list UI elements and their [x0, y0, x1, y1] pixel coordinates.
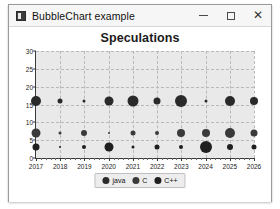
x-minor-tick [123, 158, 124, 160]
x-axis-tick-label: 2021 [126, 163, 140, 170]
bubble-point [225, 96, 235, 106]
x-tick-mark [60, 158, 61, 161]
window-title: BubbleChart example [32, 10, 135, 22]
x-minor-tick [186, 158, 187, 160]
bubble-point [33, 144, 40, 151]
gridline-horizontal [36, 87, 254, 88]
x-minor-tick [244, 158, 245, 160]
x-minor-tick [225, 158, 226, 160]
legend-marker-icon [132, 177, 139, 184]
y-axis-tick-label: 30 [26, 48, 33, 55]
bubble-point [202, 129, 210, 137]
x-minor-tick [114, 158, 115, 160]
gridline-vertical [84, 51, 85, 158]
gridline-vertical [157, 51, 158, 158]
y-axis-tick-label: 0 [29, 155, 33, 162]
x-minor-tick [239, 158, 240, 160]
bubble-point [32, 129, 41, 138]
close-icon: ✕ [253, 9, 263, 21]
y-axis-tick-label: 5 [29, 137, 33, 144]
x-tick-mark [36, 158, 37, 161]
x-axis-tick-label: 2024 [198, 163, 212, 170]
plot-area: 0510152025302017201820192020202120222023… [36, 51, 254, 158]
legend-label: C++ [164, 177, 177, 184]
x-tick-mark [181, 158, 182, 161]
window-client-area: Speculations 051015202530201720182019202… [9, 27, 271, 202]
y-axis-tick-label: 25 [26, 65, 33, 72]
x-minor-tick [51, 158, 52, 160]
bubble-point [83, 99, 86, 102]
x-minor-tick [201, 158, 202, 160]
legend-item[interactable]: C [132, 177, 147, 184]
x-minor-tick [75, 158, 76, 160]
x-minor-tick [80, 158, 81, 160]
x-minor-tick [210, 158, 211, 160]
bubble-point [58, 98, 63, 103]
legend-item[interactable]: C++ [154, 177, 177, 184]
y-tick-mark [33, 86, 36, 87]
x-minor-tick [65, 158, 66, 160]
y-tick-mark [33, 68, 36, 69]
legend-label: C [142, 177, 147, 184]
x-minor-tick [176, 158, 177, 160]
x-tick-mark [133, 158, 134, 161]
y-axis-tick-label: 20 [26, 83, 33, 90]
x-tick-mark [254, 158, 255, 161]
bubble-point [59, 146, 61, 148]
x-axis-tick-label: 2023 [174, 163, 188, 170]
x-axis-tick-label: 2019 [77, 163, 91, 170]
x-axis-line [35, 158, 255, 159]
legend-label: java [112, 177, 125, 184]
x-axis-tick-label: 2017 [29, 163, 43, 170]
gridline-horizontal [36, 140, 254, 141]
bubble-point [31, 96, 41, 106]
bubble-point [131, 146, 134, 149]
maximize-button[interactable] [217, 5, 244, 26]
x-tick-mark [157, 158, 158, 161]
x-minor-tick [94, 158, 95, 160]
x-minor-tick [235, 158, 236, 160]
x-axis-tick-label: 2026 [247, 163, 261, 170]
x-minor-tick [41, 158, 42, 160]
y-tick-mark [33, 140, 36, 141]
x-minor-tick [147, 158, 148, 160]
x-tick-mark [84, 158, 85, 161]
x-tick-mark [109, 158, 110, 161]
x-minor-tick [191, 158, 192, 160]
bubble-point [81, 130, 87, 136]
bubble-point [204, 99, 207, 102]
y-axis-tick-label: 10 [26, 119, 33, 126]
x-minor-tick [152, 158, 153, 160]
bubble-point [127, 95, 138, 106]
bubble-point [104, 143, 113, 152]
legend-marker-icon [102, 177, 109, 184]
minimize-button[interactable] [190, 5, 217, 26]
bubble-point [200, 141, 212, 153]
gridline-horizontal [36, 105, 254, 106]
x-minor-tick [128, 158, 129, 160]
x-axis-tick-label: 2018 [53, 163, 67, 170]
desktop-background: BubbleChart example ✕ Speculations 05101… [0, 0, 280, 209]
x-minor-tick [55, 158, 56, 160]
bubble-point [227, 144, 233, 150]
bubble-point [108, 132, 110, 134]
x-tick-mark [206, 158, 207, 161]
x-minor-tick [70, 158, 71, 160]
bubble-point [225, 128, 235, 138]
bubble-point [250, 97, 258, 105]
title-bar[interactable]: BubbleChart example ✕ [9, 5, 271, 27]
window-controls: ✕ [190, 5, 271, 26]
close-button[interactable]: ✕ [244, 5, 271, 26]
x-minor-tick [118, 158, 119, 160]
x-minor-tick [143, 158, 144, 160]
x-minor-tick [46, 158, 47, 160]
gridline-horizontal [36, 69, 254, 70]
bubble-point [155, 131, 159, 135]
x-minor-tick [196, 158, 197, 160]
y-tick-mark [33, 51, 36, 52]
bubble-point [252, 145, 257, 150]
x-axis-tick-label: 2022 [150, 163, 164, 170]
app-icon [16, 11, 26, 21]
bubble-point [175, 95, 187, 107]
legend-item[interactable]: java [102, 177, 125, 184]
